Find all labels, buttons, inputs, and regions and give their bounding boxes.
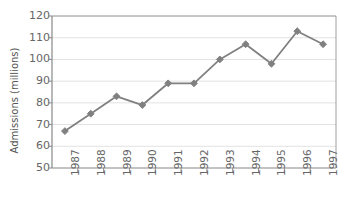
x-tick-label: 1994: [251, 149, 262, 176]
x-tick-label: 1987: [70, 149, 81, 176]
x-tick-label: 1991: [173, 149, 184, 176]
x-tick-label: 1989: [122, 149, 133, 176]
line-chart: Admissions (millions) 506070809010011012…: [0, 0, 356, 217]
axis-lines: [52, 16, 336, 168]
x-tick-label: 1997: [328, 149, 339, 176]
x-tick-label: 1993: [225, 149, 236, 176]
x-tick-label: 1988: [96, 149, 107, 176]
x-tick-label: 1996: [302, 149, 313, 176]
x-tick-label: 1990: [147, 149, 158, 176]
plot-area: [0, 0, 356, 217]
data-point-marker: [320, 41, 327, 48]
x-tick-label: 1992: [199, 149, 210, 176]
x-tick-label: 1995: [276, 149, 287, 176]
